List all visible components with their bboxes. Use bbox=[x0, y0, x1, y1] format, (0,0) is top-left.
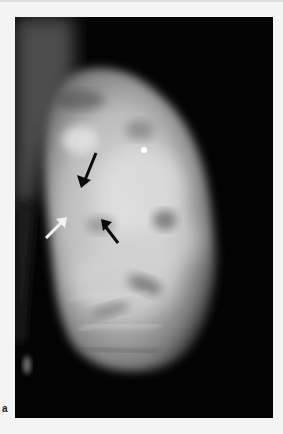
page-top-border bbox=[0, 0, 283, 2]
bright-dot-marker bbox=[141, 147, 147, 153]
lower-left-artifact bbox=[23, 356, 31, 374]
mammogram-svg bbox=[15, 17, 273, 418]
panel-label: a bbox=[2, 404, 8, 414]
mammogram-image bbox=[15, 17, 273, 418]
